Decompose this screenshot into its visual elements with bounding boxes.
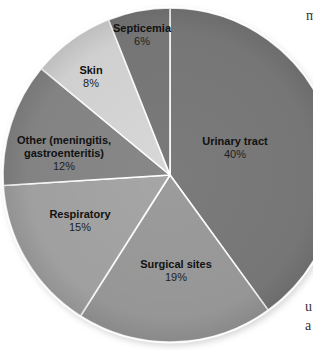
slice-label: Septicemia xyxy=(113,22,172,34)
slice-percentage: 19% xyxy=(165,271,187,283)
slice-label: Respiratory xyxy=(49,208,111,220)
slice-percentage: 40% xyxy=(224,148,246,160)
slice-percentage: 12% xyxy=(53,160,75,172)
pie-chart: Urinary tract40%Surgical sites19%Respira… xyxy=(0,0,313,350)
slice-label: Other (meningitis, xyxy=(17,134,111,146)
slice-label: Skin xyxy=(79,64,103,76)
slice-label: Urinary tract xyxy=(202,135,268,147)
body-text-fragment: a xyxy=(305,318,311,334)
slice-percentage: 8% xyxy=(83,77,99,89)
slice-label: gastroenteritis) xyxy=(24,147,104,159)
slice-percentage: 6% xyxy=(134,35,150,47)
slice-percentage: 15% xyxy=(69,221,91,233)
body-text-fragment: m xyxy=(306,8,313,24)
slice-label: Surgical sites xyxy=(140,258,212,270)
body-text-fragment: u xyxy=(305,299,312,315)
